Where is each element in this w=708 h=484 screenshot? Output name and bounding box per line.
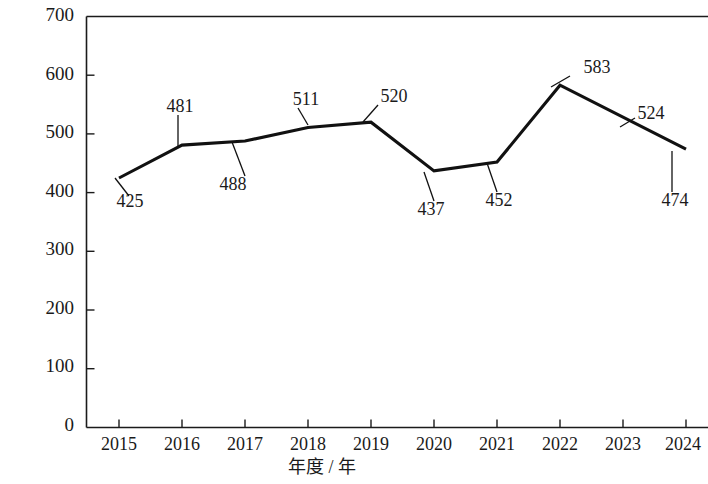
data-series-line [119, 85, 686, 178]
y-tick-marks [87, 75, 95, 369]
plot-canvas [0, 0, 708, 484]
x-tick-marks [119, 420, 686, 428]
line-chart-figure: 立项数量 / 项 年度 / 年 700 600 500 400 300 200 … [0, 0, 708, 484]
